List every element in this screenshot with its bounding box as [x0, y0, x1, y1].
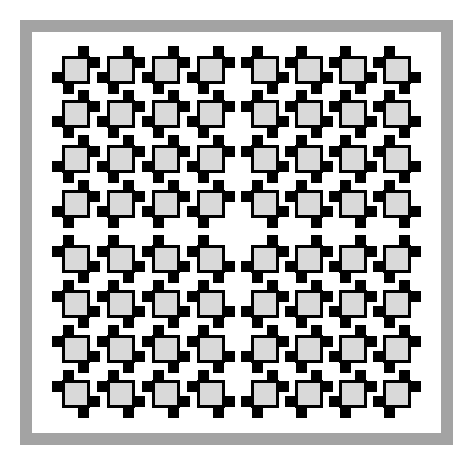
- gray-square: [197, 56, 225, 84]
- black-notch: [267, 217, 278, 228]
- black-notch: [153, 172, 164, 183]
- notched-square-tile: [152, 100, 180, 128]
- black-notch: [278, 246, 289, 257]
- black-notch: [384, 407, 395, 418]
- black-notch: [366, 336, 377, 347]
- black-notch: [213, 272, 224, 283]
- gray-square: [251, 190, 279, 218]
- gray-square: [251, 290, 279, 318]
- notched-square-tile: [62, 145, 90, 173]
- notched-square-tile: [251, 145, 279, 173]
- gray-square: [107, 190, 135, 218]
- black-notch: [123, 272, 134, 283]
- black-notch: [168, 362, 179, 373]
- black-notch: [267, 172, 278, 183]
- black-notch: [410, 291, 421, 302]
- black-notch: [278, 116, 289, 127]
- black-notch: [179, 146, 190, 157]
- gray-square: [107, 245, 135, 273]
- black-notch: [322, 381, 333, 392]
- black-notch: [224, 146, 235, 157]
- notched-square-tile: [62, 190, 90, 218]
- notched-square-tile: [383, 56, 411, 84]
- black-notch: [179, 396, 190, 407]
- notched-square-tile: [197, 190, 225, 218]
- black-notch: [366, 246, 377, 257]
- black-notch: [153, 83, 164, 94]
- notched-square-tile: [251, 245, 279, 273]
- black-notch: [366, 161, 377, 172]
- gray-square: [295, 335, 323, 363]
- gray-square: [62, 245, 90, 273]
- notched-square-tile: [107, 56, 135, 84]
- gray-square: [197, 335, 225, 363]
- notched-square-tile: [62, 380, 90, 408]
- gray-square: [107, 335, 135, 363]
- notched-square-tile: [152, 56, 180, 84]
- black-notch: [322, 116, 333, 127]
- black-notch: [296, 362, 307, 373]
- black-notch: [179, 261, 190, 272]
- black-notch: [108, 217, 119, 228]
- notched-square-tile: [62, 100, 90, 128]
- black-notch: [168, 407, 179, 418]
- gray-square: [295, 290, 323, 318]
- gray-square: [251, 335, 279, 363]
- gray-square: [152, 100, 180, 128]
- notched-square-tile: [383, 145, 411, 173]
- black-notch: [410, 246, 421, 257]
- notched-square-tile: [295, 100, 323, 128]
- black-notch: [267, 83, 278, 94]
- notched-square-tile: [251, 335, 279, 363]
- black-notch: [340, 272, 351, 283]
- notched-square-tile: [295, 380, 323, 408]
- black-notch: [198, 127, 209, 138]
- black-notch: [198, 217, 209, 228]
- gray-square: [251, 380, 279, 408]
- notched-square-tile: [295, 56, 323, 84]
- black-notch: [267, 127, 278, 138]
- notched-square-tile: [339, 100, 367, 128]
- black-notch: [179, 101, 190, 112]
- gray-square: [62, 380, 90, 408]
- black-notch: [311, 172, 322, 183]
- gray-square: [62, 145, 90, 173]
- black-notch: [224, 101, 235, 112]
- black-notch: [213, 317, 224, 328]
- gray-square: [152, 290, 180, 318]
- notched-square-tile: [152, 245, 180, 273]
- black-notch: [63, 127, 74, 138]
- notched-square-tile: [339, 245, 367, 273]
- gray-square: [62, 290, 90, 318]
- black-notch: [89, 57, 100, 68]
- black-notch: [78, 272, 89, 283]
- black-notch: [296, 317, 307, 328]
- black-notch: [168, 272, 179, 283]
- gray-square: [197, 245, 225, 273]
- black-notch: [366, 116, 377, 127]
- notched-square-tile: [339, 190, 367, 218]
- gray-square: [107, 290, 135, 318]
- notched-square-tile: [62, 290, 90, 318]
- black-notch: [322, 291, 333, 302]
- notched-square-tile: [383, 245, 411, 273]
- black-notch: [322, 246, 333, 257]
- notched-square-tile: [197, 335, 225, 363]
- notched-square-tile: [383, 380, 411, 408]
- black-notch: [322, 206, 333, 217]
- gray-square: [339, 190, 367, 218]
- black-notch: [134, 57, 145, 68]
- notched-square-tile: [152, 190, 180, 218]
- notched-square-tile: [107, 380, 135, 408]
- black-notch: [355, 127, 366, 138]
- notched-square-tile: [339, 290, 367, 318]
- black-notch: [311, 127, 322, 138]
- black-notch: [311, 83, 322, 94]
- gray-square: [107, 100, 135, 128]
- black-notch: [410, 206, 421, 217]
- black-notch: [355, 172, 366, 183]
- notched-square-tile: [339, 145, 367, 173]
- black-notch: [399, 127, 410, 138]
- black-notch: [252, 362, 263, 373]
- gray-square: [107, 56, 135, 84]
